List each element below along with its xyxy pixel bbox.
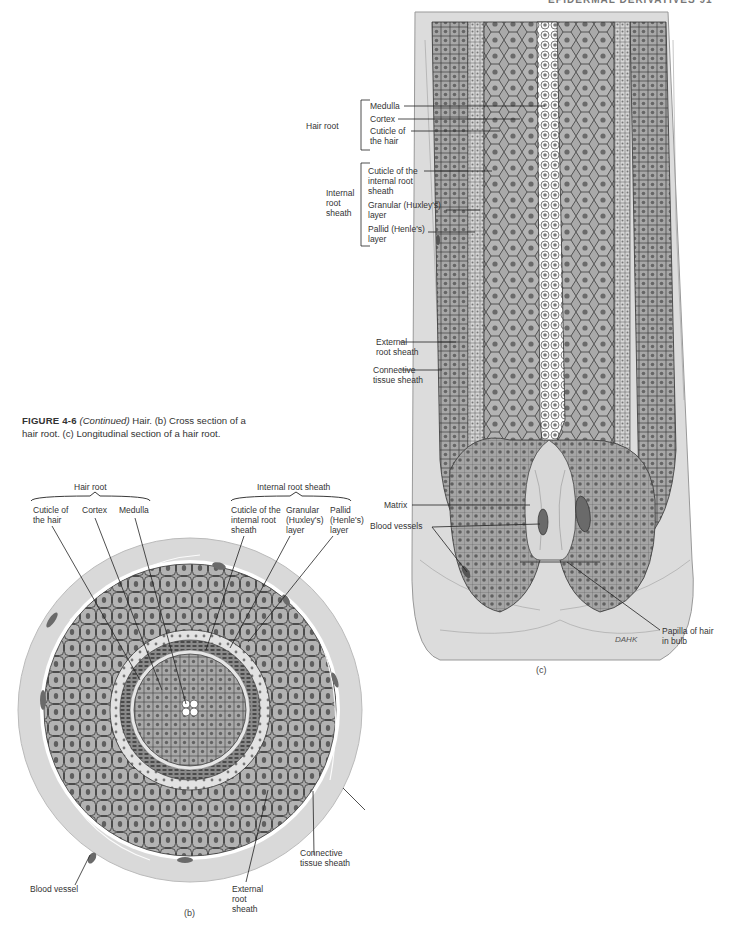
panel-c-label-medulla: Medulla	[370, 101, 400, 111]
panel-c-label-papilla: Papilla of hair in bulb	[662, 626, 716, 646]
panel-b-label-connective-tissue-sheath: Connective tissue sheath	[300, 848, 356, 868]
panel-b-letter: (b)	[184, 908, 195, 918]
panel-c-label-cortex: Cortex	[370, 114, 395, 124]
panel-c-label-cuticle-hair: Cuticle of the hair	[370, 126, 414, 146]
panel-c-label-blood-vessels: Blood vessels	[370, 521, 422, 531]
caption-continued: (Continued)	[79, 415, 129, 426]
panel-c-label-matrix: Matrix	[384, 500, 407, 510]
panel-c-label-external-root-sheath: External root sheath	[376, 337, 424, 357]
panel-b-label-granular: Granular (Huxley's) layer	[286, 505, 330, 535]
panel-c-letter: (c)	[536, 665, 547, 675]
panel-b-label-medulla: Medulla	[119, 505, 149, 515]
figure-caption: FIGURE 4-6 (Continued) Hair. (b) Cross s…	[22, 415, 262, 440]
panel-b-label-pallid: Pallid (Henle's) layer	[330, 505, 370, 535]
panel-b-label-external-root-sheath: External root sheath	[232, 884, 272, 914]
panel-b-group-hair-root: Hair root	[74, 482, 107, 492]
panel-b-group-internal-root-sheath: Internal root sheath	[257, 482, 330, 492]
artist-signature: DAHK	[615, 635, 638, 644]
panel-c-group-internal-root-sheath: Internal root sheath	[326, 188, 366, 218]
panel-c-group-hair-root: Hair root	[306, 121, 339, 131]
panel-b-label-cuticle-irs: Cuticle of the internal root sheath	[231, 505, 283, 535]
cortex-disc	[134, 654, 246, 766]
panel-c-label-pallid: Pallid (Henle's) layer	[368, 224, 428, 244]
panel-c-label-connective-tissue-sheath: Connective tissue sheath	[373, 365, 435, 385]
panel-b-brackets	[31, 492, 351, 501]
panel-b-label-blood-vessel: Blood vessel	[30, 884, 78, 894]
panel-b-label-cortex: Cortex	[82, 505, 107, 515]
figure-number: FIGURE 4-6	[22, 415, 77, 426]
panel-b-label-cuticle-hair: Cuticle of the hair	[33, 505, 73, 525]
panel-c-label-granular: Granular (Huxley's) layer	[368, 200, 446, 220]
panel-c-label-cuticle-irs: Cuticle of the internal root sheath	[368, 166, 430, 196]
